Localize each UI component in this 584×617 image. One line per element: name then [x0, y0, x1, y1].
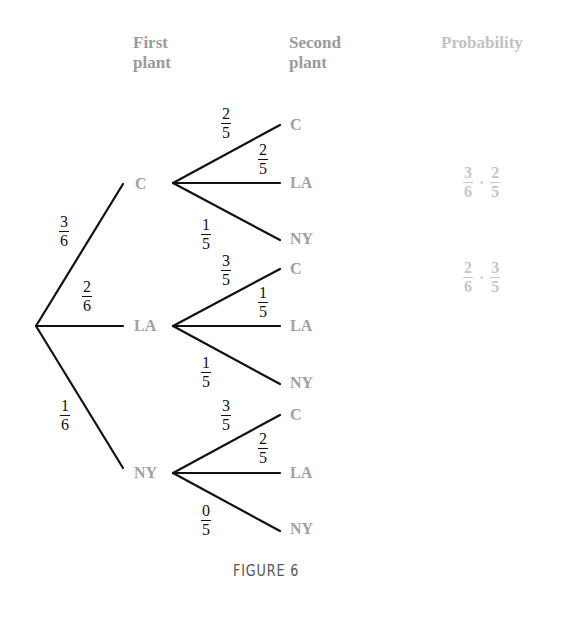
prob-la-la: 1 5	[258, 285, 268, 320]
denominator: 5	[202, 235, 210, 252]
prob-la-ny: 1 5	[201, 355, 211, 390]
prob-ny-ny: 0 5	[201, 503, 211, 538]
prob-root-la: 2 6	[82, 279, 92, 314]
numerator: 2	[258, 431, 268, 449]
numerator: 2	[221, 106, 231, 124]
prob-c-ny: 1 5	[201, 217, 211, 252]
numerator: 3	[221, 398, 231, 416]
numerator: 2	[258, 142, 268, 160]
fraction-a: 2 6	[463, 260, 473, 295]
numerator: 1	[258, 285, 268, 303]
denominator: 5	[259, 160, 267, 177]
node-first-ny: NY	[134, 464, 157, 482]
numerator: 2	[82, 279, 92, 297]
numerator: 3	[221, 253, 231, 271]
denominator: 5	[222, 124, 230, 141]
fraction-b: 2 5	[490, 165, 500, 200]
node-first-c: C	[135, 175, 147, 193]
numerator: 2	[463, 260, 473, 278]
node-c-la: LA	[290, 174, 312, 192]
numerator: 2	[490, 165, 500, 183]
numerator: 3	[490, 260, 500, 278]
denominator: 5	[491, 278, 499, 295]
multiply-dot: ·	[479, 269, 484, 287]
denominator: 5	[491, 183, 499, 200]
numerator: 0	[201, 503, 211, 521]
node-ny-la: LA	[290, 464, 312, 482]
probability-la-c: 2 6 · 3 5	[463, 260, 500, 295]
branch-root-c	[36, 184, 123, 326]
denominator: 5	[222, 416, 230, 433]
denominator: 6	[464, 278, 472, 295]
denominator: 6	[464, 183, 472, 200]
denominator: 5	[202, 373, 210, 390]
prob-c-c: 2 5	[221, 106, 231, 141]
prob-root-c: 3 6	[59, 214, 69, 249]
prob-ny-c: 3 5	[221, 398, 231, 433]
node-ny-ny: NY	[290, 520, 313, 538]
prob-ny-la: 2 5	[258, 431, 268, 466]
multiply-dot: ·	[479, 174, 484, 192]
denominator: 6	[61, 416, 69, 433]
node-la-la: LA	[290, 317, 312, 335]
denominator: 5	[259, 449, 267, 466]
numerator: 1	[60, 398, 70, 416]
denominator: 5	[202, 521, 210, 538]
branch-root-ny	[36, 326, 123, 468]
prob-la-c: 3 5	[221, 253, 231, 288]
fraction-b: 3 5	[490, 260, 500, 295]
figure-caption: FIGURE 6	[233, 562, 299, 580]
node-la-c: C	[290, 260, 302, 278]
prob-c-la: 2 5	[258, 142, 268, 177]
denominator: 6	[83, 297, 91, 314]
probability-c-c: 3 6 · 2 5	[463, 165, 500, 200]
denominator: 5	[222, 271, 230, 288]
node-c-ny: NY	[290, 230, 313, 248]
node-la-ny: NY	[290, 374, 313, 392]
numerator: 1	[201, 217, 211, 235]
numerator: 3	[59, 214, 69, 232]
numerator: 1	[201, 355, 211, 373]
numerator: 3	[463, 165, 473, 183]
node-c-c: C	[290, 116, 302, 134]
prob-root-ny: 1 6	[60, 398, 70, 433]
node-ny-c: C	[290, 406, 302, 424]
denominator: 6	[60, 232, 68, 249]
denominator: 5	[259, 303, 267, 320]
node-first-la: LA	[134, 317, 156, 335]
fraction-a: 3 6	[463, 165, 473, 200]
